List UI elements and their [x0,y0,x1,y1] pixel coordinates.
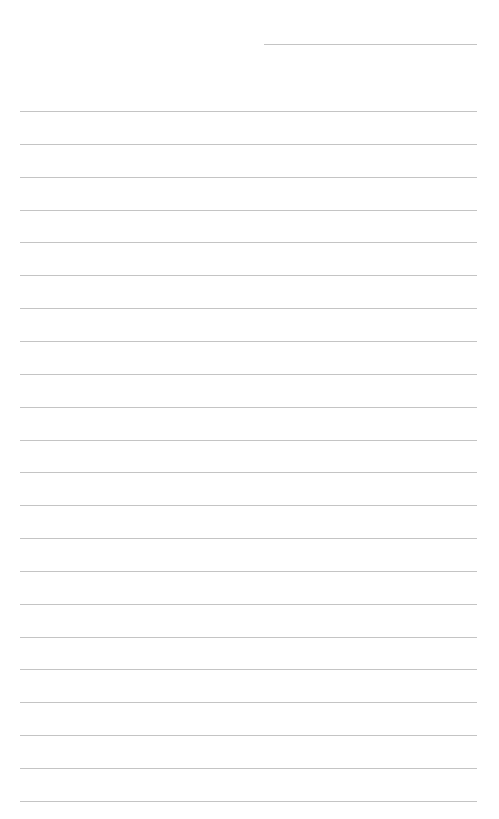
ruled-line[interactable] [20,242,477,243]
ruled-line[interactable] [20,341,477,342]
ruled-line[interactable] [20,308,477,309]
ruled-line[interactable] [20,177,477,178]
ruled-line[interactable] [20,210,477,211]
ruled-line[interactable] [20,604,477,605]
ruled-line[interactable] [20,440,477,441]
ruled-line[interactable] [20,407,477,408]
ruled-line[interactable] [20,702,477,703]
ruled-line[interactable] [20,768,477,769]
ruled-line[interactable] [20,571,477,572]
ruled-line[interactable] [20,144,477,145]
date-header-line[interactable] [264,44,477,45]
ruled-line[interactable] [20,735,477,736]
lined-page [0,0,499,819]
ruled-line[interactable] [20,472,477,473]
ruled-line[interactable] [20,275,477,276]
ruled-line[interactable] [20,669,477,670]
ruled-line[interactable] [20,111,477,112]
ruled-line[interactable] [20,801,477,802]
ruled-line[interactable] [20,637,477,638]
ruled-line[interactable] [20,538,477,539]
ruled-line[interactable] [20,374,477,375]
ruled-line[interactable] [20,505,477,506]
